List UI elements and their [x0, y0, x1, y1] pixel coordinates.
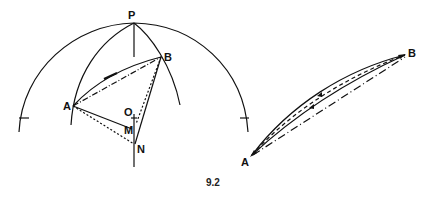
great-circle-diagram [0, 0, 432, 197]
figure-caption: 9.2 [206, 178, 220, 188]
label-o: O [124, 107, 133, 118]
label-a-right: A [241, 157, 249, 168]
direction-arrow [104, 73, 117, 79]
route-chord [253, 57, 405, 155]
line-b-o-dotted [136, 57, 161, 124]
route-dashed [252, 55, 405, 155]
line-b-n [135, 57, 161, 144]
label-m: M [124, 125, 133, 136]
label-p: P [128, 10, 135, 21]
label-b-right: B [408, 48, 416, 59]
label-a-left: A [63, 101, 71, 112]
route-arc-inner [252, 55, 405, 155]
meridian-arc-b [134, 23, 180, 105]
route-arc-outer [252, 55, 405, 155]
label-b-left: B [164, 52, 172, 63]
label-n: N [137, 144, 145, 155]
chord-ab [73, 57, 161, 106]
